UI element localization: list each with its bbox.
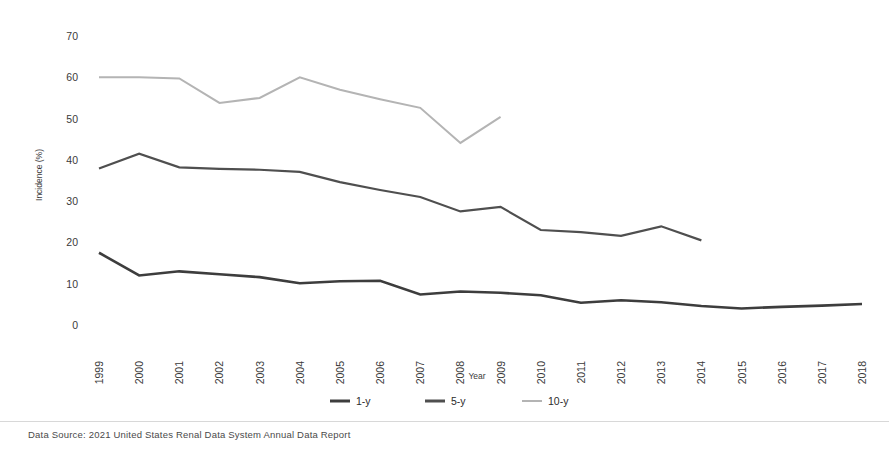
x-tick-label: 2004 <box>294 361 306 385</box>
x-tick-label: 2001 <box>173 361 185 385</box>
x-tick-label: 2010 <box>535 361 547 385</box>
x-tick-label: 2009 <box>495 361 507 385</box>
y-tick-label: 0 <box>72 319 78 331</box>
x-tick-label: 2005 <box>334 361 346 385</box>
legend-label-5-y: 5-y <box>451 395 466 407</box>
x-tick-label: 2011 <box>575 361 587 384</box>
chart-legend: 1-y5-y10-y <box>330 395 569 407</box>
y-tick-label: 10 <box>66 278 78 290</box>
y-tick-label: 20 <box>66 236 78 248</box>
y-tick-label: 60 <box>66 71 78 83</box>
y-axis-tick-labels: 010203040506070 <box>66 30 78 331</box>
series-line-10-y <box>99 77 501 143</box>
footer-divider <box>0 421 889 422</box>
series-line-1-y <box>99 253 862 309</box>
y-axis-title: Incidence (%) <box>34 149 44 201</box>
x-tick-label: 2014 <box>695 361 707 385</box>
x-tick-label: 2018 <box>856 361 868 385</box>
series-lines <box>99 77 862 308</box>
chart-container: 010203040506070 199920002001200220032004… <box>0 0 889 450</box>
x-tick-label: 2000 <box>133 361 145 385</box>
x-tick-label: 2008 <box>454 361 466 385</box>
x-tick-label: 2015 <box>736 361 748 385</box>
x-tick-label: 2017 <box>816 361 828 385</box>
series-line-5-y <box>99 154 701 241</box>
line-chart: 010203040506070 199920002001200220032004… <box>0 0 889 450</box>
x-tick-label: 2013 <box>655 361 667 385</box>
legend-label-10-y: 10-y <box>548 395 569 407</box>
x-tick-label: 2006 <box>374 361 386 385</box>
x-axis-title: Year <box>468 371 485 381</box>
y-tick-label: 50 <box>66 113 78 125</box>
x-tick-label: 2012 <box>615 361 627 385</box>
x-tick-label: 2002 <box>213 361 225 385</box>
y-tick-label: 30 <box>66 195 78 207</box>
x-tick-label: 1999 <box>93 361 105 385</box>
y-tick-label: 40 <box>66 154 78 166</box>
x-tick-label: 2003 <box>254 361 266 385</box>
legend-label-1-y: 1-y <box>356 395 371 407</box>
x-tick-label: 2007 <box>414 361 426 385</box>
x-tick-label: 2016 <box>776 361 788 385</box>
y-tick-label: 70 <box>66 30 78 42</box>
data-source-note: Data Source: 2021 United States Renal Da… <box>28 429 351 440</box>
